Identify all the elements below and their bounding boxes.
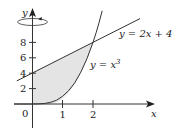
y-tick-label-6: 6 — [20, 52, 26, 63]
x-tick-label-2: 2 — [90, 109, 96, 120]
x-axis-label: x — [151, 108, 157, 119]
cubic-label: y = x3 — [89, 58, 121, 70]
y-tick-label-4: 4 — [20, 68, 26, 79]
shaded-region-fill — [32, 42, 93, 104]
line-label: y = 2x + 4 — [118, 28, 173, 39]
rotation-arrow-icon — [38, 17, 42, 21]
y-axis-label: y — [21, 7, 28, 18]
figure: y x 0 1 2 2 4 6 8 y = 2x + 4 y = x3 — [0, 0, 180, 132]
cubic-label-exponent: 3 — [116, 58, 121, 66]
origin-label: 0 — [22, 108, 28, 119]
cubic-label-base: y = x — [89, 59, 116, 70]
x-tick-label-1: 1 — [60, 109, 66, 120]
y-tick-label-8: 8 — [20, 37, 26, 48]
y-tick-label-2: 2 — [20, 83, 26, 94]
